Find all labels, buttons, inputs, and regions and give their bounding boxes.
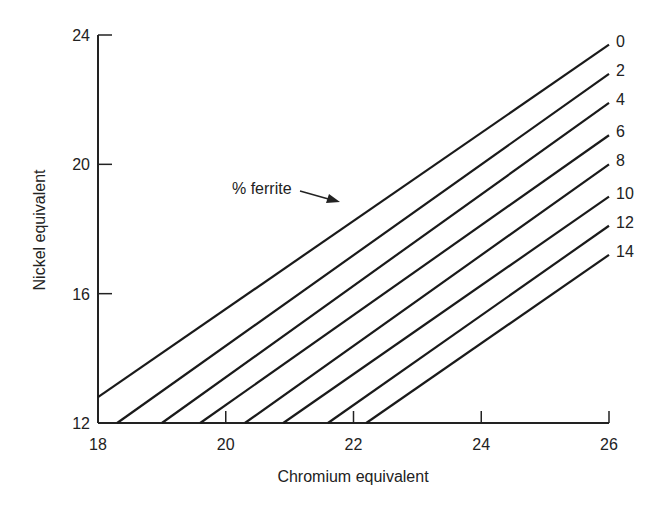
series-label: 10 <box>616 185 634 202</box>
ferrite-line-12 <box>328 226 609 423</box>
x-tick-label: 18 <box>89 436 107 453</box>
y-tick-label: 16 <box>72 286 90 303</box>
ferrite-lines <box>98 45 609 423</box>
ferrite-line-10 <box>283 197 609 423</box>
series-labels: 02468101214 <box>616 33 634 260</box>
series-label: 12 <box>616 214 634 231</box>
axes: 182022242612162024 <box>72 27 618 453</box>
annotation: % ferrite <box>232 180 340 203</box>
ferrite-line-6 <box>200 135 609 423</box>
series-label: 14 <box>616 243 634 260</box>
y-tick-label: 20 <box>72 156 90 173</box>
ferrite-chart: 182022242612162024 02468101214 Chromium … <box>0 0 664 507</box>
y-tick-label: 24 <box>72 27 90 44</box>
y-tick-label: 12 <box>72 415 90 432</box>
series-label: 6 <box>616 123 625 140</box>
x-tick-label: 24 <box>472 436 490 453</box>
ferrite-line-4 <box>162 103 609 423</box>
ferrite-line-0 <box>98 45 609 397</box>
series-label: 2 <box>616 62 625 79</box>
x-axis-label: Chromium equivalent <box>277 468 429 485</box>
series-label: 0 <box>616 33 625 50</box>
x-tick-label: 22 <box>345 436 363 453</box>
arrow-icon <box>300 191 332 200</box>
x-tick-label: 26 <box>600 436 618 453</box>
arrowhead-icon <box>326 194 340 203</box>
series-label: 8 <box>616 152 625 169</box>
annotation-text: % ferrite <box>232 180 292 197</box>
y-axis-label: Nickel equivalent <box>31 169 48 291</box>
x-tick-label: 20 <box>217 436 235 453</box>
series-label: 4 <box>616 91 625 108</box>
